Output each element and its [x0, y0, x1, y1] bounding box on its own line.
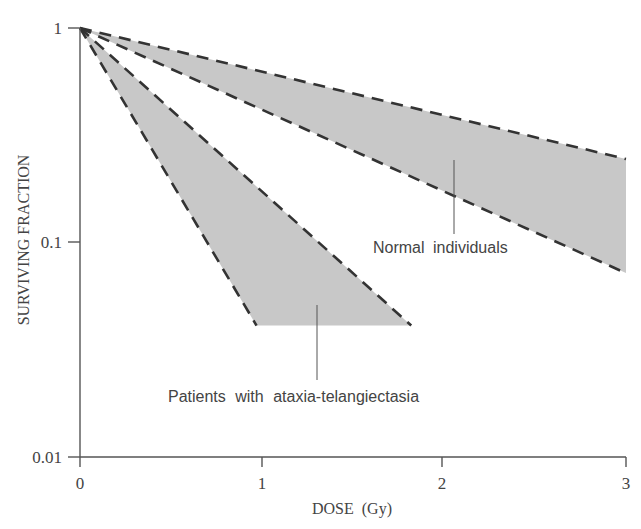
- survival-chart: 1 0.1 0.01 0 1 2 3 DOSE (Gy) SURVIVING F…: [0, 0, 641, 529]
- x-axis-title: DOSE (Gy): [312, 500, 392, 518]
- y-axis-title: SURVIVING FRACTION: [15, 154, 32, 325]
- at-label: Patients with ataxia-telangiectasia: [168, 388, 419, 405]
- normal-label: Normal individuals: [373, 239, 508, 256]
- x-tick-label-2: 2: [438, 474, 447, 493]
- plot-area: [80, 28, 626, 326]
- y-tick-label-0.01: 0.01: [32, 448, 62, 467]
- x-tick-label-3: 3: [622, 474, 631, 493]
- y-tick-label-1: 1: [54, 19, 63, 38]
- x-tick-label-1: 1: [258, 474, 267, 493]
- x-tick-label-0: 0: [76, 474, 85, 493]
- y-tick-label-0.1: 0.1: [41, 233, 62, 252]
